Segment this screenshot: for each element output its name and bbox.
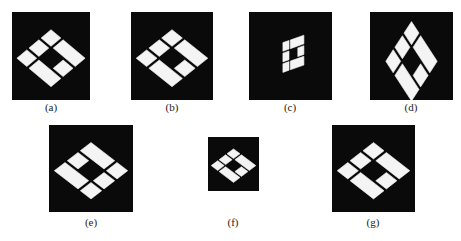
label-b: (b): [152, 101, 192, 113]
tile-b-5: [149, 60, 183, 87]
panel-d: [370, 12, 453, 100]
tile-d-1: [413, 36, 437, 73]
tile-f-1: [235, 155, 256, 171]
tile-b-1: [174, 40, 208, 67]
pattern-e: [49, 125, 133, 212]
pattern-a: [12, 12, 90, 100]
tile-e-0: [80, 143, 114, 169]
tile-g-5: [350, 173, 384, 199]
panel-f: [208, 137, 259, 191]
tile-a-1: [53, 40, 85, 67]
tile-a-5: [29, 60, 61, 87]
tile-d-5: [395, 64, 419, 100]
tile-f-5: [219, 167, 240, 183]
tile-c-3: [283, 51, 289, 62]
panel-c: [249, 12, 332, 100]
tile-c-4: [283, 62, 289, 73]
label-g: (g): [353, 216, 393, 228]
panel-b: [131, 12, 213, 100]
tile-g-1: [376, 153, 410, 179]
label-f: (f): [213, 216, 253, 228]
pattern-b: [131, 12, 213, 100]
label-c: (c): [270, 101, 310, 113]
tile-c-5: [290, 56, 304, 70]
panel-a: [12, 12, 90, 100]
label-e: (e): [71, 216, 111, 228]
panel-e: [49, 125, 133, 212]
tile-e-5: [54, 163, 88, 189]
tile-c-0: [283, 41, 289, 52]
panel-g: [332, 125, 415, 212]
label-a: (a): [31, 101, 71, 113]
pattern-g: [332, 125, 415, 212]
tile-c-2: [298, 46, 304, 57]
label-d: (d): [391, 101, 431, 113]
pattern-f: [208, 137, 259, 191]
pattern-d: [370, 12, 453, 100]
pattern-c: [249, 12, 332, 100]
